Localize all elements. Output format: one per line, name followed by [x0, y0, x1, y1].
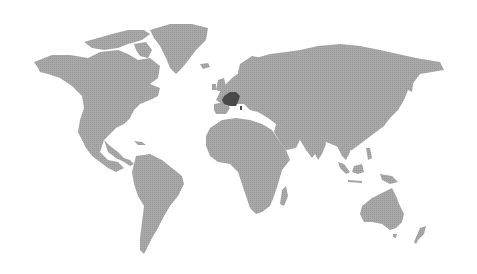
- borneo: [352, 164, 364, 174]
- java: [348, 180, 362, 183]
- baffin-island: [134, 42, 152, 58]
- new-guinea: [380, 174, 398, 184]
- south-america: [132, 154, 184, 254]
- tasmania: [393, 234, 397, 238]
- caribbean: [134, 141, 146, 145]
- iceland: [200, 63, 210, 69]
- new-zealand: [414, 226, 426, 244]
- madagascar: [280, 186, 288, 206]
- highlight-corsica: [240, 106, 242, 110]
- philippines: [366, 148, 372, 160]
- ireland: [212, 84, 216, 90]
- north-america: [34, 50, 160, 172]
- world-map: [0, 0, 477, 274]
- sumatra: [338, 162, 350, 174]
- australia: [360, 188, 404, 230]
- sakhalin: [408, 74, 414, 92]
